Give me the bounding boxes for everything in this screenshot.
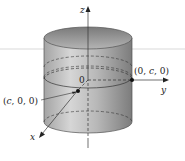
x-axis-label: x bbox=[30, 132, 35, 142]
point-c00-label: (c, 0, 0) bbox=[3, 96, 38, 106]
point-0c0 bbox=[130, 78, 134, 82]
point-0c0-label: (0, c, 0) bbox=[134, 66, 169, 76]
y-axis-label: y bbox=[160, 85, 167, 95]
cylinder-diagram: z y x 0 (c, 0, 0) (0, c, 0) bbox=[0, 0, 185, 161]
z-arrow-icon bbox=[86, 6, 91, 12]
x-arrow-icon bbox=[39, 132, 45, 139]
point-c00 bbox=[76, 89, 80, 93]
z-axis-label: z bbox=[79, 5, 85, 15]
y-arrow-icon bbox=[163, 78, 169, 83]
origin-label: 0 bbox=[79, 75, 85, 85]
